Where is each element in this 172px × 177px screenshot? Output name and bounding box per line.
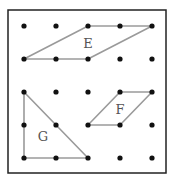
grid-dot: [21, 56, 26, 61]
grid-dot: [53, 122, 58, 127]
grid-dot: [21, 89, 26, 94]
labels-layer: EFG: [38, 36, 125, 144]
shape-label-e: E: [83, 36, 93, 51]
grid-dot: [53, 89, 58, 94]
grid-dot: [21, 23, 26, 28]
shape-label-f: F: [115, 102, 124, 117]
grid-dot: [149, 122, 154, 127]
grid-dot: [53, 56, 58, 61]
grid-dot: [53, 23, 58, 28]
grid-dot: [117, 56, 122, 61]
shape-label-g: G: [38, 129, 48, 144]
grid-dot: [149, 23, 154, 28]
grid-dot: [117, 89, 122, 94]
grid-dot: [117, 122, 122, 127]
grid-dot: [53, 155, 58, 160]
grid-dot: [149, 56, 154, 61]
grid-dot: [85, 122, 90, 127]
grid-dot: [117, 155, 122, 160]
grid-dot: [85, 56, 90, 61]
grid-dot: [85, 23, 90, 28]
grid-dot: [149, 89, 154, 94]
grid-dot: [149, 155, 154, 160]
grid-dot: [21, 155, 26, 160]
grid-dot: [85, 89, 90, 94]
grid-dot: [85, 155, 90, 160]
dot-grid-diagram: EFG: [0, 0, 172, 177]
grid-dot: [117, 23, 122, 28]
grid-dot: [21, 122, 26, 127]
